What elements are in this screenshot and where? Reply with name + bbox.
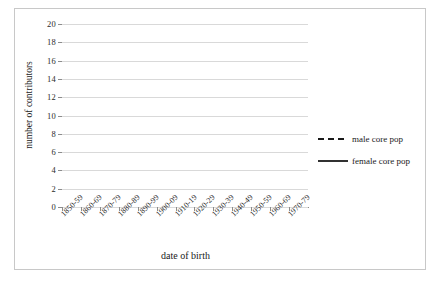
x-axis-title: date of birth bbox=[62, 250, 309, 261]
legend-swatch-dashed bbox=[318, 134, 348, 144]
y-tick-mark bbox=[58, 79, 62, 80]
x-tick-mark bbox=[270, 207, 271, 211]
y-tick-mark bbox=[58, 97, 62, 98]
x-tick-mark bbox=[194, 207, 195, 211]
legend-swatch-solid bbox=[318, 156, 348, 166]
legend-item-male: male core pop bbox=[318, 128, 424, 150]
x-tick-mark bbox=[100, 207, 101, 211]
x-tick-mark bbox=[157, 207, 158, 211]
y-tick-mark bbox=[58, 42, 62, 43]
y-tick-mark bbox=[58, 134, 62, 135]
x-tick-mark bbox=[62, 207, 63, 211]
x-tick-mark bbox=[81, 207, 82, 211]
x-tick-mark bbox=[119, 207, 120, 211]
x-tick-mark bbox=[138, 207, 139, 211]
y-tick-mark bbox=[58, 116, 62, 117]
x-tick-mark bbox=[176, 207, 177, 211]
chart-legend: male core pop female core pop bbox=[318, 128, 424, 172]
x-tick-mark bbox=[251, 207, 252, 211]
y-tick-mark bbox=[58, 152, 62, 153]
x-tick-mark bbox=[232, 207, 233, 211]
figure-container: number of contributors 02468101214161820… bbox=[0, 0, 440, 293]
y-tick-mark bbox=[58, 24, 62, 25]
y-tick-mark bbox=[58, 170, 62, 171]
x-tick-mark bbox=[213, 207, 214, 211]
legend-label-male: male core pop bbox=[352, 134, 403, 144]
legend-item-female: female core pop bbox=[318, 150, 424, 172]
legend-label-female: female core pop bbox=[352, 156, 410, 166]
y-tick-mark bbox=[58, 61, 62, 62]
y-tick-mark bbox=[58, 189, 62, 190]
x-tick-mark bbox=[289, 207, 290, 211]
